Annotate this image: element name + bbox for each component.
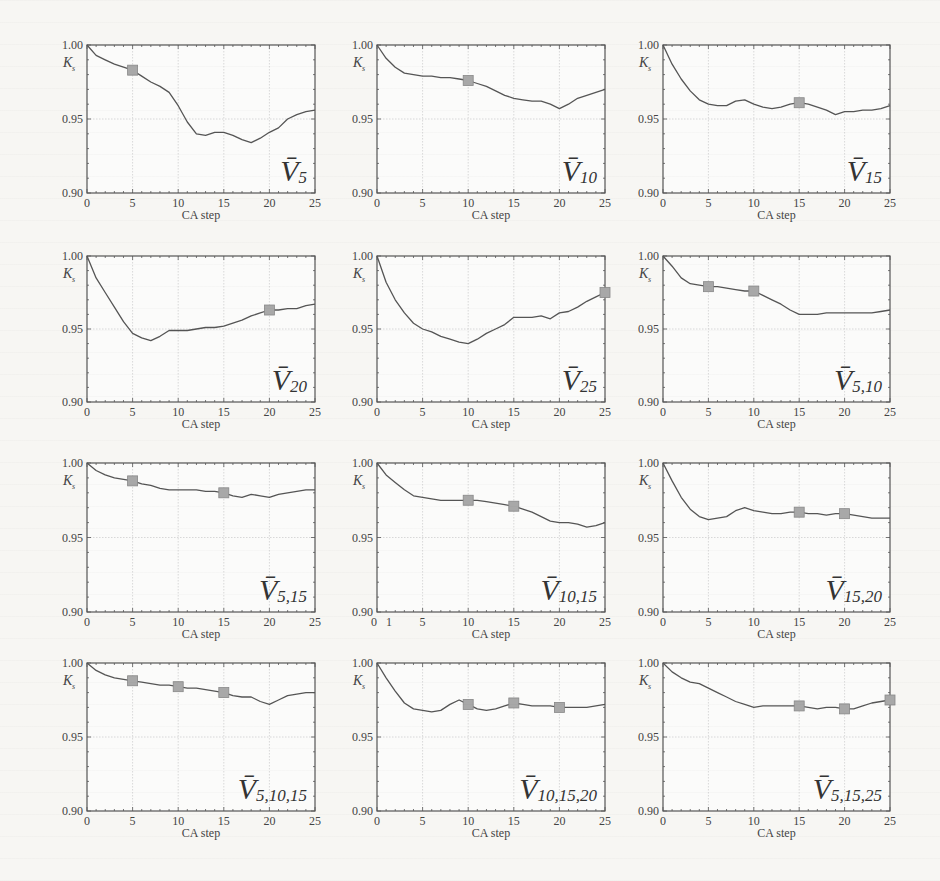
page-background <box>0 0 940 881</box>
figure-grid: 0.900.951.000510152025CA stepKsV̄50.900.… <box>0 0 940 881</box>
